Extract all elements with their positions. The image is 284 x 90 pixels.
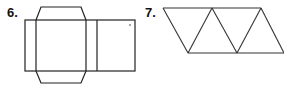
diagram-canvas [0, 0, 284, 90]
strip-diagonal-2 [188, 8, 212, 53]
figure-7-triangle-strip [163, 8, 284, 53]
net-outer-rect [25, 20, 135, 71]
strip-diagonal-4 [237, 8, 261, 53]
net-top-flap [36, 7, 86, 20]
strip-diagonal-3 [212, 8, 237, 53]
figure-6-prism-net [25, 7, 135, 83]
net-bottom-flap [36, 71, 86, 83]
strip-diagonal-1 [163, 8, 188, 53]
strip-diagonal-5 [261, 8, 284, 53]
